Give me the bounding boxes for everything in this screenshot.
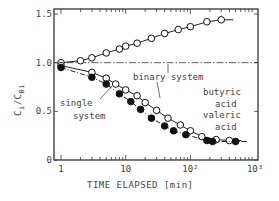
- data-point: [161, 123, 168, 130]
- y-tick-0.5: 0.5: [36, 106, 52, 116]
- data-point: [116, 46, 123, 53]
- x-tick-1000: 10³: [247, 164, 263, 174]
- data-point: [170, 128, 177, 135]
- data-point: [153, 107, 160, 114]
- y-tick-0: 0: [47, 155, 52, 165]
- data-point: [177, 122, 184, 129]
- data-point: [148, 35, 155, 42]
- data-point: [89, 74, 96, 81]
- annot-valeric-line2: acid: [215, 122, 237, 132]
- data-point: [165, 115, 172, 122]
- data-point: [187, 23, 194, 30]
- data-point: [209, 138, 216, 145]
- data-point: [112, 81, 119, 88]
- data-point: [134, 92, 141, 99]
- data-point: [116, 91, 123, 98]
- data-point: [232, 138, 239, 145]
- data-point: [204, 18, 211, 25]
- data-point: [148, 115, 155, 122]
- data-point: [137, 106, 144, 113]
- annot-single-line2: system: [73, 111, 106, 121]
- y-tick-1.0: 1.0: [36, 58, 52, 68]
- annot-valeric-line1: valeric: [203, 110, 241, 120]
- data-point: [58, 64, 65, 71]
- data-point: [89, 55, 96, 62]
- x-tick-10: 10: [120, 164, 131, 174]
- svg-text:Ci/C0i: Ci/C0i: [13, 84, 26, 116]
- y-tick-1.5: 1.5: [36, 9, 52, 19]
- x-tick-100: 10²: [182, 164, 198, 174]
- annot-binary-system: binary system: [133, 72, 203, 82]
- data-point: [103, 50, 110, 57]
- annot-butyric-line2: acid: [215, 99, 237, 109]
- data-point: [77, 57, 84, 64]
- data-point: [226, 137, 233, 144]
- data-point: [122, 87, 129, 94]
- x-axis-title: TIME ELAPSED [min]: [87, 180, 194, 190]
- data-point: [103, 81, 110, 88]
- annot-butyric-line1: butyric: [203, 87, 241, 97]
- y-axis-title: Ci/C0i: [13, 84, 26, 116]
- data-point: [122, 43, 129, 50]
- chart: 11010²10³00.51.01.5 butyric acid binary …: [0, 0, 279, 201]
- annotations: butyric acid binary system single system…: [60, 72, 241, 132]
- data-point: [142, 99, 149, 106]
- data-point: [134, 40, 141, 47]
- data-point: [183, 131, 190, 138]
- data-point: [175, 26, 182, 33]
- data-point: [161, 30, 168, 37]
- x-tick-1: 1: [58, 164, 63, 174]
- data-point: [128, 98, 135, 105]
- annot-single-line1: single: [60, 98, 93, 108]
- data-point: [218, 17, 225, 24]
